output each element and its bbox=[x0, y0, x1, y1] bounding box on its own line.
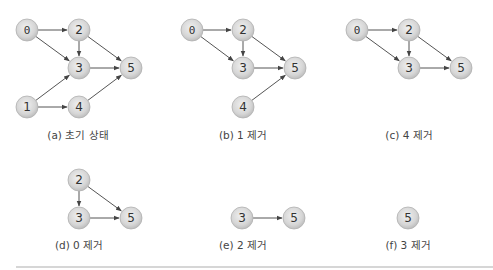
graph-node-2: 2 bbox=[232, 19, 254, 41]
graph-node-5: 5 bbox=[120, 207, 142, 229]
node-label: 3 bbox=[75, 211, 83, 225]
graph-node-3: 3 bbox=[68, 207, 90, 229]
node-label: 0 bbox=[189, 24, 196, 37]
panel-caption-a: (a) 초기 상태 bbox=[47, 129, 108, 141]
graph-node-2: 2 bbox=[68, 169, 90, 191]
node-label: 3 bbox=[75, 61, 83, 75]
panel-a-nodes: 023514 bbox=[16, 19, 142, 118]
graph-node-3: 3 bbox=[231, 207, 253, 229]
edge-0-to-3 bbox=[366, 36, 399, 60]
panel-f-nodes: 5 bbox=[397, 207, 419, 229]
graph-node-5: 5 bbox=[120, 57, 142, 79]
edge-4-to-5 bbox=[252, 75, 286, 100]
panel-b-nodes: 02354 bbox=[181, 19, 306, 118]
graph-node-5: 5 bbox=[283, 207, 305, 229]
node-label: 1 bbox=[23, 100, 31, 114]
graph-node-0: 0 bbox=[181, 19, 203, 41]
node-label: 5 bbox=[457, 61, 465, 75]
graph-node-3: 3 bbox=[68, 57, 90, 79]
nodes-layer: 023514023540235235355 bbox=[16, 19, 472, 229]
node-label: 3 bbox=[405, 61, 413, 75]
node-label: 4 bbox=[239, 100, 247, 114]
graph-node-0: 0 bbox=[16, 19, 38, 41]
node-label: 5 bbox=[291, 61, 299, 75]
node-label: 2 bbox=[239, 23, 247, 37]
panel-caption-f: (f) 3 제거 bbox=[385, 239, 430, 251]
panel-caption-c: (c) 4 제거 bbox=[385, 129, 432, 141]
edge-2-to-5 bbox=[88, 186, 121, 210]
node-label: 3 bbox=[239, 61, 247, 75]
edge-4-to-5 bbox=[88, 75, 122, 100]
graph-node-3: 3 bbox=[398, 57, 420, 79]
node-label: 5 bbox=[290, 211, 298, 225]
node-label: 2 bbox=[75, 23, 83, 37]
graph-node-4: 4 bbox=[68, 96, 90, 118]
topological-sort-figure: 023514023540235235355 (a) 초기 상태(b) 1 제거(… bbox=[0, 0, 493, 270]
node-label: 5 bbox=[127, 61, 135, 75]
graph-node-1: 1 bbox=[16, 96, 38, 118]
graph-node-2: 2 bbox=[398, 19, 420, 41]
graph-node-0: 0 bbox=[346, 19, 368, 41]
panel-caption-d: (d) 0 제거 bbox=[55, 239, 103, 251]
node-label: 2 bbox=[75, 173, 83, 187]
graph-node-5: 5 bbox=[450, 57, 472, 79]
edge-0-to-3 bbox=[201, 37, 234, 61]
node-label: 3 bbox=[238, 211, 246, 225]
node-label: 4 bbox=[75, 100, 83, 114]
graph-node-2: 2 bbox=[68, 19, 90, 41]
node-label: 0 bbox=[24, 24, 31, 37]
panel-caption-e: (e) 2 제거 bbox=[219, 239, 267, 251]
edge-2-to-5 bbox=[418, 36, 451, 60]
edge-2-to-5 bbox=[252, 36, 285, 60]
graph-node-5: 5 bbox=[397, 207, 419, 229]
edge-1-to-3 bbox=[36, 75, 70, 100]
graph-node-3: 3 bbox=[232, 57, 254, 79]
node-label: 0 bbox=[354, 24, 361, 37]
graph-node-5: 5 bbox=[284, 57, 306, 79]
node-label: 2 bbox=[405, 23, 413, 37]
node-label: 5 bbox=[404, 211, 412, 225]
edge-2-to-5 bbox=[88, 36, 121, 60]
edge-0-to-3 bbox=[36, 36, 69, 60]
node-label: 5 bbox=[127, 211, 135, 225]
captions-layer: (a) 초기 상태(b) 1 제거(c) 4 제거(d) 0 제거(e) 2 제… bbox=[47, 129, 432, 251]
graph-node-4: 4 bbox=[232, 96, 254, 118]
panel-caption-b: (b) 1 제거 bbox=[219, 129, 267, 141]
